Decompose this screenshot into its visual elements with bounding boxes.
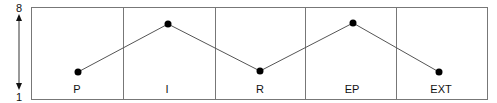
column-label-ext: EXT [430, 83, 452, 95]
data-points [75, 20, 443, 76]
column-label-i: I [165, 83, 168, 95]
y-axis-arrow [16, 14, 22, 90]
data-line [78, 23, 439, 72]
column-label-p: P [73, 83, 80, 95]
axis-top-label: 8 [16, 2, 22, 14]
point-p [75, 69, 82, 76]
point-i [165, 21, 172, 28]
column-label-r: R [256, 83, 264, 95]
axis-bottom-label: 1 [16, 91, 22, 103]
point-ep [350, 20, 357, 27]
point-ext [436, 69, 443, 76]
point-r [257, 68, 264, 75]
phase-diagram: 8 1 P I R EP EXT [0, 0, 497, 103]
column-label-ep: EP [345, 83, 360, 95]
